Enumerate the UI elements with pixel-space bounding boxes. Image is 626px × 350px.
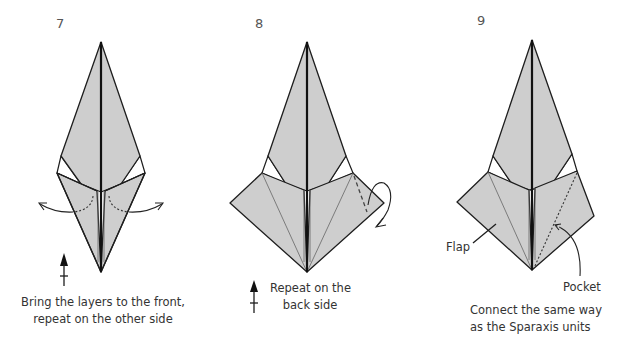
step-8-right-flap (307, 173, 384, 272)
step-9-right-flap (532, 171, 594, 270)
step-9-number: 9 (477, 13, 485, 28)
step-7-number: 7 (56, 16, 64, 31)
step-7-arrow-left (40, 204, 73, 212)
step-8-figure (230, 42, 391, 313)
origami-diagram: 7 8 9 Bring the layers to the front, rep… (0, 0, 626, 350)
step-9-caption: Connect the same way as the Sparaxis uni… (470, 302, 590, 336)
pocket-label: Pocket (563, 280, 601, 294)
step-7-figure (39, 42, 163, 286)
step-7-caption: Bring the layers to the front, repeat on… (18, 294, 188, 328)
step-7-arrow-right (129, 204, 162, 212)
step-8-caption: Repeat on the back side (270, 280, 350, 314)
step-9-figure (457, 40, 594, 276)
step-9-caption-line1: Connect the same way (470, 302, 590, 319)
step-8-number: 8 (255, 16, 263, 31)
step-9-caption-line2: as the Sparaxis units (470, 319, 590, 336)
step-8-caption-line1: Repeat on the (270, 280, 350, 297)
flap-label: Flap (446, 240, 470, 254)
step-7-caption-line2: repeat on the other side (18, 311, 188, 328)
turn-over-arrow-icon (250, 280, 258, 313)
step-8-caption-line2: back side (270, 297, 350, 314)
step-7-caption-line1: Bring the layers to the front, (18, 294, 188, 311)
turn-over-arrow-icon (60, 253, 68, 286)
